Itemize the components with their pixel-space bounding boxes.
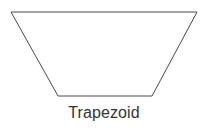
trapezoid-figure: Trapezoid	[0, 0, 208, 134]
trapezoid-outline	[11, 12, 197, 96]
shape-label: Trapezoid	[0, 104, 208, 122]
